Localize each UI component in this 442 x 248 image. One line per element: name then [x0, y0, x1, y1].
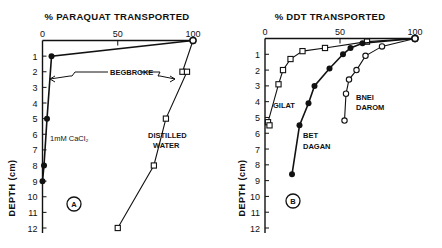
- panel-a-series-1-mm-cacl2-point: [190, 38, 196, 44]
- panel-a-title: % PARAQUAT TRANSPORTED: [44, 11, 189, 22]
- panel-a-series-1-mm-cacl2-line: [43, 41, 194, 182]
- label-darom: DAROM: [356, 103, 384, 112]
- panel-b-series-gilat-point: [300, 49, 305, 54]
- panel-a-series-distilled-water-point: [115, 225, 120, 230]
- panel-b-y-tick-label: 11: [251, 208, 260, 218]
- panel-b-badge-label: B: [290, 197, 296, 206]
- panel-b-series-gilat-point: [322, 45, 327, 50]
- panel-a-y-tick-label: 8: [32, 161, 37, 171]
- panel-b-y-tick-label: 2: [255, 66, 260, 76]
- label-bnei: BNEI: [356, 93, 374, 102]
- panel-a-y-tick-label: 9: [32, 177, 37, 187]
- panel-a-badge-label: A: [71, 200, 77, 209]
- panel-b-series-bet-dagan-line: [292, 39, 415, 175]
- chart-figure: % PARAQUAT TRANSPORTED DEPTH (cm) BEGBRO…: [0, 0, 442, 248]
- panel-b-x-tick-label: 0: [262, 27, 267, 37]
- panel-a-x-tick-label: 50: [113, 29, 123, 39]
- panel-b-series-bnei-darom-point: [379, 44, 384, 49]
- label-distilled: DISTILLED: [148, 131, 187, 140]
- panel-a-series-1-mm-cacl2-point: [40, 178, 46, 184]
- panel-b-title: % DDT TRANSPORTED: [275, 11, 386, 22]
- panel-a-y-tick-label: 4: [32, 99, 37, 109]
- panel-b-series-bet-dagan-point: [340, 51, 346, 57]
- panel-b-series-bnei-darom-point: [342, 118, 347, 123]
- panel-a-y-tick-label: 3: [32, 83, 37, 93]
- panel-b-series-bet-dagan-point: [289, 171, 295, 177]
- panel-a-series-1-mm-cacl2-point: [41, 163, 47, 169]
- panel-a-y-tick-label: 6: [32, 130, 37, 140]
- panel-b-series-gilat-point: [276, 82, 281, 87]
- label-dagan: DAGAN: [303, 142, 331, 151]
- panel-a-series-distilled-water-point: [184, 69, 189, 74]
- panel-a-series-distilled-water-point: [163, 116, 168, 121]
- panel-b-y-tick-label: 7: [255, 145, 260, 155]
- panel-a-y-tick-label: 2: [32, 67, 37, 77]
- panel-b-series-gilat-point: [267, 123, 272, 128]
- panel-a-ylabel: DEPTH (cm): [7, 159, 17, 216]
- panel-b-y-tick-label: 1: [255, 50, 260, 60]
- panel-a-y-tick-label: 10: [27, 192, 37, 202]
- panel-b-series-bnei-darom-point: [412, 36, 418, 42]
- label-bet: BET: [303, 131, 318, 140]
- panel-b-y-tick-label: 6: [255, 129, 260, 139]
- panel-b-badge: B: [286, 194, 300, 208]
- panel-b-series-bnei-darom-point: [343, 91, 348, 96]
- panel-a-y-tick-label: 11: [28, 208, 37, 218]
- panel-b-series-bet-dagan-point: [297, 122, 303, 128]
- panel-b-y-tick-label: 3: [255, 81, 260, 91]
- panel-b-y-tick-label: 12: [250, 224, 260, 234]
- panel-b-series-bnei-darom-point: [363, 53, 368, 58]
- panel-b-series-bnei-darom-point: [346, 77, 351, 82]
- panel-b-plot: 050100123456789101112: [250, 27, 423, 234]
- panel-b-y-tick-label: 5: [255, 113, 260, 123]
- panel-b-y-tick-label: 8: [255, 160, 260, 170]
- panel-b-x-tick-label: 50: [335, 27, 345, 37]
- panel-a-y-tick-label: 7: [32, 145, 37, 155]
- panel-a-x-tick-label: 0: [40, 29, 45, 39]
- panel-a-series-distilled-water-point: [151, 163, 156, 168]
- panel-b-series-bet-dagan-point: [327, 66, 333, 72]
- panel-b-y-tick-label: 10: [250, 192, 260, 202]
- panel-b-y-tick-label: 4: [255, 97, 260, 107]
- label-gilat: GILAT: [273, 101, 295, 110]
- panel-a-series-1-mm-cacl2-point: [44, 116, 50, 122]
- label-water: WATER: [153, 141, 180, 150]
- panel-b-ylabel: DEPTH (cm): [237, 159, 247, 216]
- panel-a-y-tick-label: 12: [27, 224, 37, 234]
- panel-b-series-bet-dagan-point: [348, 45, 354, 51]
- panel-b-series-bnei-darom-point: [354, 67, 359, 72]
- panel-b-series-gilat-point: [280, 67, 285, 72]
- panel-a-series-1-mm-cacl2-point: [49, 53, 55, 59]
- panel-b-series-gilat-point: [288, 56, 293, 61]
- panel-b-y-tick-label: 9: [255, 176, 260, 186]
- panel-b-series-bet-dagan-point: [360, 40, 366, 46]
- panel-a-badge: A: [67, 197, 81, 211]
- label-cacl2: 1mM CaCl₂: [50, 134, 88, 143]
- panel-a-y-tick-label: 1: [32, 52, 37, 62]
- panel-b-series-gilat-line: [268, 39, 415, 126]
- panel-a-y-tick-label: 5: [32, 114, 37, 124]
- panel-b-series-bet-dagan-point: [306, 100, 312, 106]
- panel-b-series-bet-dagan-point: [312, 83, 318, 89]
